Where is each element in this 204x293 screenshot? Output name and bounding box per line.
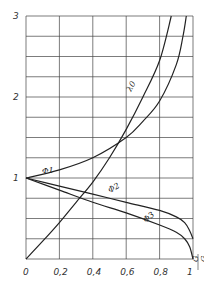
x-tick-label: 1 — [187, 267, 193, 277]
y-tick-label: 2 — [13, 92, 19, 102]
y-tick-label: 3 — [13, 11, 19, 21]
x-tick-label: 0,2 — [53, 267, 68, 277]
tick-labels: 00,20,40,60,81123 — [13, 11, 193, 277]
x-tick-label: 0,8 — [154, 267, 169, 277]
x-tick-label: 0,4 — [87, 267, 102, 277]
x-axis-label: G G — [191, 254, 204, 270]
x-tick-label: 0,6 — [120, 267, 135, 277]
curve-label-phi1: Φ1 — [42, 166, 54, 175]
x-tick-label: 0 — [23, 267, 29, 277]
y-tick-label: 1 — [13, 173, 19, 183]
curve-label-phi2: Φ2 — [107, 181, 122, 195]
chart: 00,20,40,60,81123 λ0 Φ1 Φ2 Φ3 G G — [0, 0, 204, 293]
grid — [26, 16, 193, 259]
x-axis-label-denominator: G — [199, 255, 204, 262]
